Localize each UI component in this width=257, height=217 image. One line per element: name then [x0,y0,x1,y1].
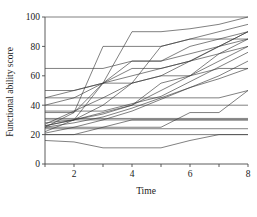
x-tick-label: 4 [130,169,135,179]
spaghetti-plot: 0204060801002468 Functional ability scor… [0,0,257,217]
y-tick-label: 100 [26,12,41,22]
y-tick-label: 80 [31,42,41,52]
x-axis-title: Time [136,186,156,196]
trajectory-line [45,32,248,125]
x-tick-label: 2 [72,169,77,179]
series-group [45,17,248,148]
chart-figure: 0204060801002468 Functional ability scor… [0,0,257,217]
y-axis-title: Functional ability score [5,47,15,137]
trajectory-line [45,135,248,148]
x-tick-label: 8 [246,169,251,179]
y-tick-label: 0 [35,159,40,169]
y-tick-label: 20 [31,130,41,140]
trajectory-line [45,39,248,68]
y-tick-label: 40 [31,101,41,111]
x-tick-label: 6 [188,169,193,179]
trajectory-line [45,39,248,127]
trajectory-line [45,120,248,127]
y-tick-label: 60 [31,71,41,81]
trajectory-line [45,17,248,132]
axis-labels-group: 0204060801002468 [26,12,251,179]
